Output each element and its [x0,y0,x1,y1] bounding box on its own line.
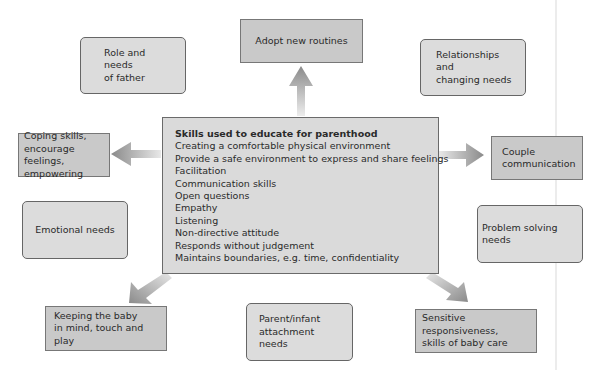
skill-item: Provide a safe environment to express an… [175,153,438,165]
skill-item: Empathy [175,202,438,214]
outcome-coping-skills: Coping skills, encourage feelings, empow… [18,133,110,177]
skill-item: Non-directive attitude [175,227,438,239]
outcome-couple-communication: Couple communication [491,136,583,180]
outcome-label: Keeping the baby in mind, touch and play [54,310,158,348]
outcome-adopt-routines: Adopt new routines [240,19,363,63]
outcome-sensitive-responsiveness: Sensitive responsiveness, skills of baby… [415,309,537,353]
needs-label: Emotional needs [35,224,114,237]
outcome-keeping-baby: Keeping the baby in mind, touch and play [45,306,167,351]
skill-item: Responds without judgement [175,240,438,252]
skill-item: Facilitation [175,165,438,177]
outcome-label: Coping skills, encourage feelings, empow… [24,130,101,180]
center-title: Skills used to educate for parenthood [175,128,438,140]
arrow-down-right-icon [426,272,468,302]
needs-attachment: Parent/infant attachment needs [246,303,353,361]
needs-label: Role and needs of father [104,47,177,85]
needs-label: Parent/infant attachment needs [259,313,344,351]
needs-label: Problem solving needs [482,222,558,247]
skill-item: Creating a comfortable physical environm… [175,140,438,152]
arrow-left-icon [111,142,161,166]
outcome-label: Adopt new routines [255,35,347,48]
arrow-up-icon [289,66,313,116]
skill-item: Maintains boundaries, e.g. time, confide… [175,252,438,264]
center-skills-box: Skills used to educate for parenthood Cr… [162,117,439,274]
needs-label: Relationships and changing needs [436,49,517,87]
needs-relationships: Relationships and changing needs [420,39,526,96]
needs-father: Role and needs of father [80,37,186,94]
needs-problem-solving: Problem solving needs [477,205,583,263]
arrow-down-left-icon [129,272,172,304]
needs-emotional: Emotional needs [22,201,128,259]
outcome-label: Couple communication [502,146,575,171]
skill-item: Listening [175,215,438,227]
outcome-label: Sensitive responsiveness, skills of baby… [422,312,528,350]
skill-item: Communication skills [175,178,438,190]
skill-item: Open questions [175,190,438,202]
